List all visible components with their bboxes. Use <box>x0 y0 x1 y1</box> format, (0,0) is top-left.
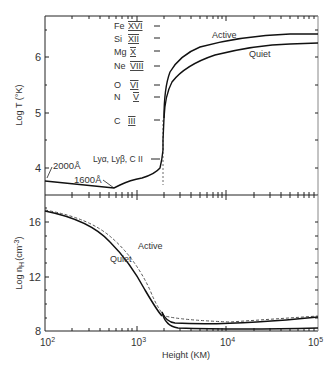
xlabel: Height (KM) <box>162 350 210 360</box>
temperature-common-curve <box>45 118 164 188</box>
label-active-bottom: Active <box>138 241 163 251</box>
bottom-ylabel: Log nH(cm-3) <box>13 237 25 290</box>
temperature-active-curve <box>164 34 318 118</box>
xticks <box>72 16 314 331</box>
density-quiet-tail <box>162 312 318 329</box>
label-quiet-top: Quiet <box>249 49 271 59</box>
ion-si: Si <box>114 34 122 44</box>
wl-2000: 2000Å <box>53 160 81 171</box>
ion-ne: Ne <box>114 61 126 71</box>
ion-fe: Fe <box>114 21 125 31</box>
top-ylabel: Log T (°K) <box>14 85 24 126</box>
xtick-1e5: 105 <box>308 336 323 348</box>
ion-labels: Fe XVI Si XII Mg X Ne VIII O VI N V C II… <box>93 21 144 164</box>
ion-o: O <box>114 80 121 90</box>
ion-mg: Mg <box>114 47 127 57</box>
density-active-curve <box>45 210 318 322</box>
xtick-1e3: 103 <box>131 336 146 348</box>
density-quiet-curve <box>45 211 162 316</box>
ion-c: C <box>114 116 121 126</box>
label-active-top: Active <box>212 30 237 40</box>
ion-n-stage: V <box>133 92 139 102</box>
top-panel <box>45 16 318 195</box>
ytick-16: 16 <box>29 216 41 228</box>
ytick-8: 8 <box>35 325 41 337</box>
ytick-5: 5 <box>35 107 41 119</box>
wl-2000-leader <box>47 167 52 178</box>
bottom-panel <box>45 195 318 331</box>
ion-c-stage: III <box>128 116 136 126</box>
ion-o-stage: VI <box>130 80 139 90</box>
xtick-labels: 102 103 104 105 <box>40 336 323 348</box>
ytick-12: 12 <box>29 271 41 283</box>
lya-label: Lyα, Lyβ, C II <box>93 154 143 164</box>
xtick-1e4: 104 <box>220 336 235 348</box>
xtick-1e2: 102 <box>40 336 55 348</box>
ion-marker-dashes <box>151 26 160 159</box>
ytick-6: 6 <box>35 51 41 63</box>
solar-atmosphere-chart: 6 5 4 Log T (°K) Fe XVI Si XII Mg X Ne V… <box>0 0 335 367</box>
wl-1600: 1600Å <box>74 174 102 185</box>
ion-fe-stage: XVI <box>128 21 143 31</box>
ion-ne-stage: VIII <box>130 61 144 71</box>
top-yticks <box>45 30 318 168</box>
density-active-tail <box>162 312 318 324</box>
ion-si-stage: XII <box>128 34 139 44</box>
ytick-4: 4 <box>35 162 41 174</box>
label-quiet-bottom: Quiet <box>110 254 132 264</box>
ion-mg-stage: X <box>130 47 136 57</box>
ion-n: N <box>114 92 121 102</box>
